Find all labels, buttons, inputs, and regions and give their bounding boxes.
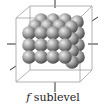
f-sublevel-diagram	[0, 0, 106, 92]
sublevel-letter: f	[26, 91, 30, 104]
sphere-cluster	[22, 13, 85, 69]
sublevel-word: sublevel	[34, 91, 80, 104]
diagram-caption: f sublevel	[0, 91, 106, 105]
